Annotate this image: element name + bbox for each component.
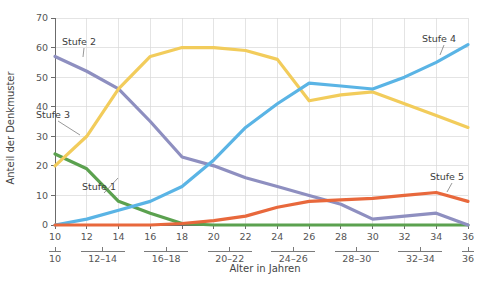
x-tick-label: 32 [398, 231, 410, 242]
group-band-label: 10 [49, 253, 61, 264]
annotation-leader-stufe-5 [447, 183, 452, 192]
group-band-label: 16–18 [152, 253, 181, 264]
x-tick-label: 24 [271, 231, 283, 242]
group-band-label: 12–14 [88, 253, 117, 264]
x-tick-label: 22 [240, 231, 252, 242]
y-tick-label: 70 [36, 12, 48, 23]
y-axis-ticks: 010203040506070 [36, 12, 55, 230]
series-annotations: Stufe 1Stufe 2Stufe 3Stufe 4Stufe 5 [36, 33, 464, 193]
annotation-label-stufe-4: Stufe 4 [422, 33, 456, 44]
annotation-label-stufe-5: Stufe 5 [430, 171, 464, 182]
annotation-leader-stufe-3 [58, 121, 80, 135]
y-tick-label: 50 [36, 72, 48, 83]
line-chart: 010203040506070 101214161820222426283032… [0, 0, 492, 282]
y-tick-label: 10 [36, 190, 48, 201]
x-tick-label: 20 [208, 231, 220, 242]
x-tick-label: 36 [462, 231, 474, 242]
y-tick-label: 20 [36, 160, 48, 171]
x-axis-title: Alter in Jahren [229, 263, 300, 274]
x-tick-label: 34 [430, 231, 442, 242]
y-axis-title: Anteil der Denkmuster [5, 70, 16, 184]
x-axis-ticks: 1012141618202224262830323436 [49, 225, 474, 242]
x-tick-label: 30 [367, 231, 379, 242]
x-tick-label: 18 [176, 231, 188, 242]
x-axis-group-bands: 1012–1416–1820–2224–2628–3032–3436 [49, 247, 474, 264]
series-line-stufe-1 [55, 154, 468, 225]
x-tick-label: 28 [335, 231, 347, 242]
x-tick-label: 12 [81, 231, 93, 242]
x-tick-label: 16 [144, 231, 156, 242]
group-band-label: 36 [462, 253, 474, 264]
annotation-leader-stufe-2 [83, 48, 84, 57]
y-tick-label: 60 [36, 42, 48, 53]
y-tick-label: 30 [36, 131, 48, 142]
annotation-label-stufe-1: Stufe 1 [82, 181, 116, 192]
annotation-leader-stufe-4 [440, 45, 444, 55]
series-lines [55, 45, 468, 225]
x-tick-label: 10 [49, 231, 61, 242]
x-tick-label: 14 [112, 231, 124, 242]
group-band-label: 28–30 [342, 253, 371, 264]
annotation-label-stufe-2: Stufe 2 [62, 36, 96, 47]
y-tick-label: 0 [42, 219, 48, 230]
group-band-label: 32–34 [406, 253, 435, 264]
annotation-label-stufe-3: Stufe 3 [36, 109, 70, 120]
chart-container: 010203040506070 101214161820222426283032… [0, 0, 492, 282]
x-tick-label: 26 [303, 231, 315, 242]
series-line-stufe-5 [55, 192, 468, 225]
